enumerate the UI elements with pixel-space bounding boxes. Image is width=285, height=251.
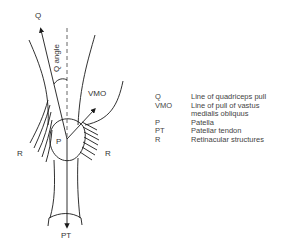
left-retinaculum-hatching bbox=[30, 100, 52, 162]
label-pt: PT bbox=[61, 232, 71, 240]
label-q: Q bbox=[35, 12, 41, 20]
label-r-left: R bbox=[17, 150, 23, 158]
right-retinaculum-hatching bbox=[80, 122, 99, 160]
label-p: P bbox=[56, 138, 61, 146]
legend-item: RRetinacular structures bbox=[155, 136, 266, 145]
label-r-right: R bbox=[105, 150, 111, 158]
tendon-outline-right bbox=[78, 158, 80, 218]
legend: QLine of quadriceps pull VMOLine of pull… bbox=[155, 93, 266, 145]
q-angle-arc bbox=[54, 79, 67, 84]
label-q-angle: Q angle bbox=[52, 44, 61, 72]
label-vmo: VMO bbox=[88, 90, 106, 98]
tendon-outline-left bbox=[50, 160, 55, 218]
vmo-line bbox=[67, 110, 94, 139]
tibia-outline bbox=[49, 214, 81, 219]
quadriceps-outline-left bbox=[29, 40, 48, 125]
vmo-outline bbox=[85, 81, 123, 125]
